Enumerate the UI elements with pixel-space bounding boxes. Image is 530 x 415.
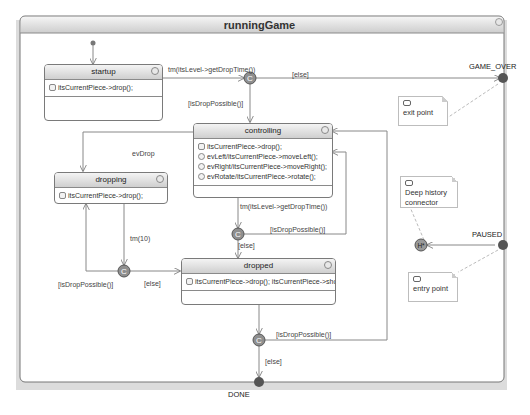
entry-action: itsCurrentPiece->drop(); [207, 143, 282, 150]
exit-point-done[interactable] [254, 377, 264, 387]
condition-connector-1[interactable]: C [244, 72, 256, 84]
state-startup[interactable]: startup itsCurrentPiece->drop(); [44, 64, 163, 121]
gear-icon[interactable] [321, 126, 329, 134]
note-entry-point[interactable]: entry point [408, 272, 458, 302]
state-name: controlling [245, 126, 281, 135]
label-controlling-tm: tm(itsLevel->getDropTime()) [240, 203, 327, 210]
condition-connector-3[interactable]: C [118, 265, 130, 277]
condition-connector-2[interactable]: C [232, 228, 244, 240]
svg-text:C: C [247, 74, 253, 83]
label-dropping-tm: tm(10) [130, 235, 150, 242]
gear-icon[interactable] [324, 261, 332, 269]
action-icon [198, 143, 205, 150]
state-name: dropping [95, 175, 126, 184]
label-c4-else: [else] [265, 358, 282, 365]
entry-action: itsCurrentPiece->drop(); [58, 84, 133, 91]
state-controlling[interactable]: controlling itsCurrentPiece->drop(); evL… [193, 123, 333, 198]
label-ev-drop: evDrop [132, 150, 155, 157]
statechart-canvas: C C C C H* runningGame startup itsCurren… [0, 0, 530, 415]
outer-state-title: runningGame [22, 17, 497, 33]
gear-icon[interactable] [151, 67, 159, 75]
reaction-left: evLeft/itsCurrentPiece->moveLeft(); [207, 153, 318, 160]
label-c3-drop-possible: [isDropPossible()] [58, 281, 113, 288]
note-exit-point[interactable]: exit point [398, 96, 448, 126]
state-name: dropped [244, 261, 273, 270]
state-dropped[interactable]: dropped itsCurrentPiece->drop(); itsCurr… [181, 258, 336, 305]
comment-icon [413, 276, 421, 282]
reaction-icon [198, 153, 205, 160]
entry-action: itsCurrentPiece->drop(); itsCurrentPiece… [195, 278, 336, 285]
action-icon [49, 84, 56, 91]
label-c2-drop-possible: [isDropPossible()] [270, 226, 325, 233]
note-deep-history[interactable]: Deep history connector [400, 176, 458, 208]
comment-icon [405, 180, 413, 186]
entry-point-paused[interactable] [498, 240, 508, 250]
reaction-rotate: evRotate/itsCurrentPiece->rotate(); [207, 173, 316, 180]
action-icon [59, 192, 66, 199]
label-done: DONE [228, 390, 250, 399]
label-c4-drop-possible: [isDropPossible()] [276, 331, 331, 338]
label-c1-drop-possible: [isDropPossible()] [188, 100, 243, 107]
comment-icon [403, 100, 411, 106]
entry-action: itsCurrentPiece->drop(); [68, 192, 143, 199]
svg-text:H*: H* [417, 242, 425, 249]
label-c2-else: [else] [238, 242, 255, 249]
note-text: entry point [413, 284, 448, 293]
gear-icon[interactable] [156, 175, 164, 183]
reaction-icon [198, 163, 205, 170]
svg-text:C: C [235, 230, 241, 239]
label-paused: PAUSED [472, 230, 502, 239]
reaction-right: evRight/itsCurrentPiece->moveRight(); [207, 163, 327, 170]
label-c3-else: [else] [144, 280, 161, 287]
label-c1-else: [else] [292, 71, 309, 78]
state-dropping[interactable]: dropping itsCurrentPiece->drop(); [54, 172, 168, 204]
reaction-icon [198, 173, 205, 180]
state-name: startup [91, 67, 115, 76]
label-startup-tm: tm(itsLevel->getDropTime()) [168, 66, 255, 73]
note-text: exit point [403, 108, 433, 117]
initial-pseudostate [91, 41, 96, 46]
exit-point-game-over[interactable] [498, 73, 508, 83]
svg-text:C: C [121, 267, 127, 276]
action-icon [186, 278, 193, 285]
condition-connector-4[interactable]: C [253, 334, 265, 346]
note-text: Deep history connector [405, 188, 447, 207]
svg-text:C: C [256, 336, 262, 345]
label-game-over: GAME_OVER [469, 62, 517, 71]
deep-history-connector[interactable]: H* [415, 239, 427, 251]
